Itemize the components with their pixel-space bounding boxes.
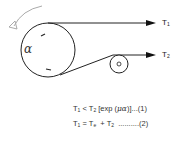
- label-t2: T2: [162, 51, 170, 59]
- eq1-tail: )]...(1): [127, 104, 147, 113]
- belt-lower: [60, 55, 113, 75]
- arrow-t2-icon: [146, 52, 156, 58]
- equation-2: T1 = Te + T2 ..........(2): [73, 120, 148, 128]
- eq1-t2: < T: [80, 104, 93, 113]
- label-t1: T1: [162, 19, 170, 27]
- angle-mark-bottom: [46, 69, 51, 70]
- label-t1-sub: 1: [167, 21, 170, 27]
- eq1-mu-alpha: μα: [117, 104, 127, 113]
- idler-roller: [110, 55, 128, 73]
- arrow-t1-icon: [146, 20, 156, 26]
- eq2-tail: ..........(2): [114, 119, 148, 128]
- eq2-te: = T: [80, 119, 93, 128]
- label-t2-sub: 2: [167, 53, 170, 59]
- angle-mark-top: [41, 34, 45, 36]
- rotation-arrow-icon: [14, 6, 42, 26]
- angle-alpha-label: α: [24, 42, 32, 56]
- eq2-t2: + T: [96, 119, 111, 128]
- rotation-arrowhead-icon: [9, 21, 17, 29]
- equation-1: T1 < T2 [exp (μα)]...(1): [73, 105, 147, 113]
- eq1-exp: [exp (: [96, 104, 117, 113]
